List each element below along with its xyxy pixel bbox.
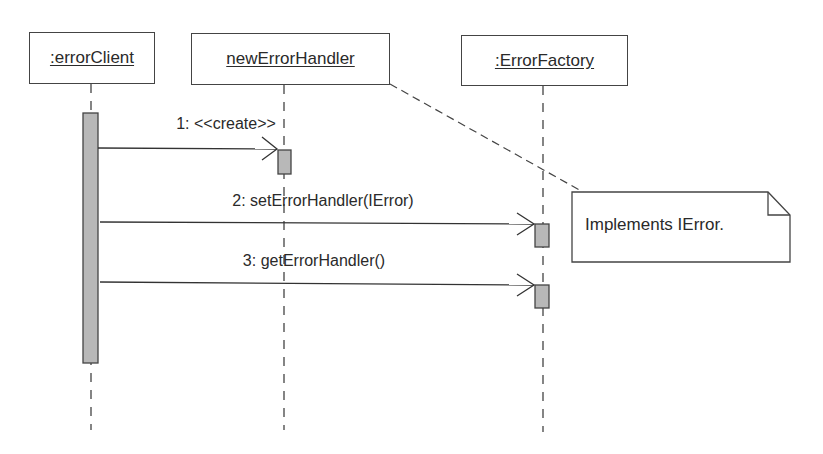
object-label: :ErrorFactory — [495, 51, 594, 71]
object-label: :errorClient — [50, 48, 134, 68]
object-ErrorFactory: :ErrorFactory — [461, 35, 628, 86]
message-label-2: 2: setErrorHandler(IError) — [232, 192, 413, 210]
object-label: newErrorHandler — [226, 49, 355, 69]
message-arrow-1 — [98, 137, 277, 160]
activation-newErrorHandler — [278, 150, 291, 174]
object-newErrorHandler: newErrorHandler — [191, 33, 390, 85]
activation-errorClient — [83, 113, 98, 363]
message-label-1: 1: <<create>> — [176, 115, 276, 133]
note-connector — [390, 84, 583, 192]
object-errorClient: :errorClient — [29, 32, 155, 84]
activation-ErrorFactory-1 — [535, 224, 549, 247]
message-label-3: 3: getErrorHandler() — [243, 252, 385, 270]
note-text: Implements IError. — [585, 215, 724, 235]
message-arrow-2 — [100, 213, 534, 235]
message-arrow-3 — [100, 274, 534, 296]
activation-ErrorFactory-2 — [535, 285, 549, 308]
